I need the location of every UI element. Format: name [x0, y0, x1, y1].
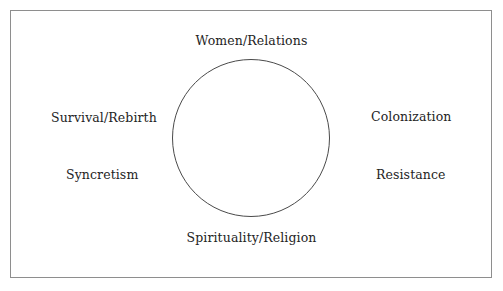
concept-circle-figure: Women/Relations Survival/Rebirth Syncret… — [0, 0, 503, 291]
label-women-relations: Women/Relations — [0, 33, 503, 48]
label-colonization: Colonization — [371, 109, 452, 124]
label-syncretism: Syncretism — [66, 167, 138, 182]
label-resistance: Resistance — [376, 167, 446, 182]
label-spirituality-religion: Spirituality/Religion — [0, 230, 503, 245]
label-survival-rebirth: Survival/Rebirth — [51, 110, 157, 125]
center-circle — [172, 59, 330, 217]
